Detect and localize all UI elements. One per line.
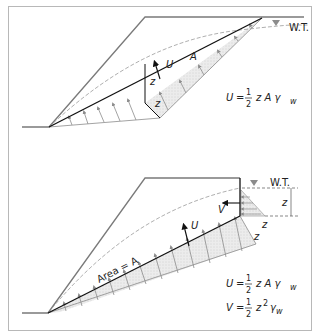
svg-text:w: w	[290, 97, 297, 106]
svg-text:1: 1	[246, 274, 251, 283]
bottom-u-label: U	[191, 220, 199, 231]
top-area-label: A	[189, 51, 197, 62]
svg-text:1: 1	[246, 298, 251, 307]
svg-text:=: =	[236, 278, 244, 289]
svg-text:1: 1	[246, 88, 251, 97]
svg-text:z A γ: z A γ	[255, 278, 281, 289]
svg-text:V: V	[226, 302, 234, 313]
top-pressure-z-label: z	[154, 98, 161, 109]
svg-text:=: =	[236, 92, 244, 103]
bottom-wt-label: W.T.	[270, 177, 290, 188]
svg-text:=: =	[236, 302, 244, 313]
svg-text:2: 2	[263, 299, 268, 308]
svg-text:2: 2	[246, 310, 251, 319]
bottom-v-label: V	[218, 204, 226, 215]
top-water-table	[49, 25, 308, 127]
bottom-width-z-label: z	[261, 219, 268, 230]
svg-text:2: 2	[246, 286, 251, 295]
top-water-table-symbol	[272, 20, 280, 26]
svg-text:U: U	[226, 278, 234, 289]
bottom-pressure-z-label: z	[253, 231, 260, 242]
bottom-panel	[22, 178, 298, 313]
svg-text:2: 2	[246, 100, 251, 109]
svg-text:z A γ: z A γ	[255, 92, 281, 103]
svg-text:w: w	[276, 307, 283, 316]
bottom-equation-v: V = 1 2 z 2 γ w	[226, 298, 283, 319]
bottom-water-table-symbol	[250, 180, 258, 186]
top-panel	[22, 17, 308, 127]
top-wt-label: W.T.	[289, 22, 309, 33]
top-u-label: U	[166, 59, 174, 70]
top-equation: U = 1 2 z A γ w	[226, 88, 297, 109]
slope-diagram: W.T. A U z z U = 1 2 z A γ w	[0, 0, 319, 336]
svg-text:w: w	[290, 283, 297, 292]
svg-text:z: z	[255, 302, 262, 313]
bottom-equation-u: U = 1 2 z A γ w	[226, 274, 297, 295]
top-crack-z-label: z	[149, 76, 156, 87]
bottom-failure-plane	[48, 216, 240, 313]
svg-text:U: U	[226, 92, 234, 103]
bottom-depth-z-label: z	[281, 197, 288, 208]
